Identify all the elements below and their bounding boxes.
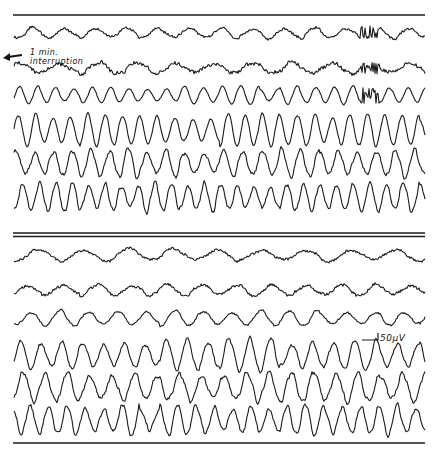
- eeg-channel-trace: [14, 26, 425, 40]
- eeg-channel-trace: [14, 247, 425, 263]
- eeg-channel-trace: [14, 336, 425, 373]
- eeg-figure: [0, 0, 439, 458]
- eeg-channel-trace: [14, 112, 425, 147]
- panel-rules: [13, 15, 425, 443]
- eeg-channel-trace: [14, 371, 425, 404]
- annotation-line-2: interruption: [30, 57, 83, 66]
- eeg-channel-trace: [14, 309, 425, 327]
- interruption-annotation: 1 min. interruption: [30, 48, 83, 66]
- eeg-channel-trace: [14, 147, 425, 180]
- eeg-channel-trace: [14, 283, 425, 297]
- eeg-channel-trace: [14, 181, 425, 215]
- eeg-channel-trace: [14, 403, 425, 438]
- left-arrow-icon: [3, 53, 22, 61]
- eeg-channel-trace: [14, 86, 425, 105]
- scale-bar-label: 50µV: [380, 334, 405, 343]
- eeg-traces: [14, 26, 425, 438]
- annotation-line-1: 1 min.: [30, 48, 83, 57]
